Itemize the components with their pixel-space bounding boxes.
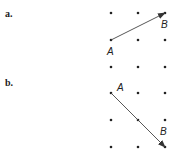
part-a-grid: AB <box>106 12 168 69</box>
vector-arrow <box>111 93 165 147</box>
vector-arrow <box>111 13 165 40</box>
grid-dot <box>137 66 140 69</box>
grid-dot <box>110 119 113 122</box>
grid-dot <box>137 39 140 42</box>
grid-dot <box>137 146 140 149</box>
grid-dot <box>137 92 140 95</box>
grid-dot <box>110 146 113 149</box>
point-b-label: B <box>160 126 167 137</box>
grid-dot <box>137 12 140 15</box>
grid-dot <box>164 119 167 122</box>
grid-dot <box>110 12 113 15</box>
grid-dot <box>164 39 167 42</box>
grid-dot <box>110 66 113 69</box>
vector-grid-diagram: AB AB <box>0 0 170 153</box>
point-a-label: A <box>106 46 114 57</box>
grid-dot <box>164 66 167 69</box>
grid-dot <box>164 92 167 95</box>
point-a-label: A <box>116 82 124 93</box>
point-b-label: B <box>161 19 168 30</box>
part-b-grid: AB <box>110 82 167 148</box>
